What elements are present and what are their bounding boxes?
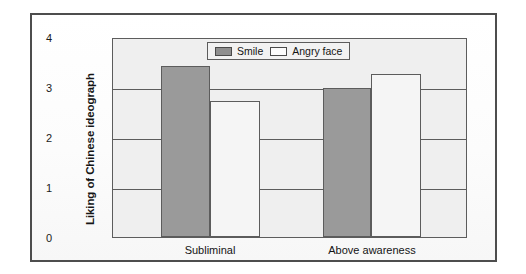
figure-frame: Liking of Chinese ideograph 4 3 2 1 0 Sm… <box>30 13 497 262</box>
legend-entry-smile: Smile <box>215 45 263 57</box>
x-category-label-subliminal: Subliminal <box>185 244 236 256</box>
bar-subliminal-angry-face <box>210 101 260 237</box>
bar-subliminal-smile <box>161 66 210 237</box>
bar-above-awareness-angry-face <box>371 74 421 237</box>
legend-label-angry-face: Angry face <box>292 45 342 57</box>
y-tick-label: 0 <box>26 232 52 244</box>
legend-swatch-angry-face-icon <box>270 47 287 56</box>
bar-above-awareness-smile <box>323 88 371 237</box>
x-category-label-above-awareness: Above awareness <box>328 244 415 256</box>
legend-entry-angry-face: Angry face <box>270 45 342 57</box>
chart-legend: Smile Angry face <box>207 42 350 60</box>
legend-swatch-smile-icon <box>215 47 232 56</box>
y-axis-title: Liking of Chinese ideograph <box>84 49 96 249</box>
y-tick-label: 3 <box>26 82 52 94</box>
y-tick-label: 2 <box>26 132 52 144</box>
plot-area <box>112 38 467 238</box>
y-tick-label: 1 <box>26 182 52 194</box>
y-tick-label: 4 <box>26 32 52 44</box>
legend-label-smile: Smile <box>237 45 263 57</box>
